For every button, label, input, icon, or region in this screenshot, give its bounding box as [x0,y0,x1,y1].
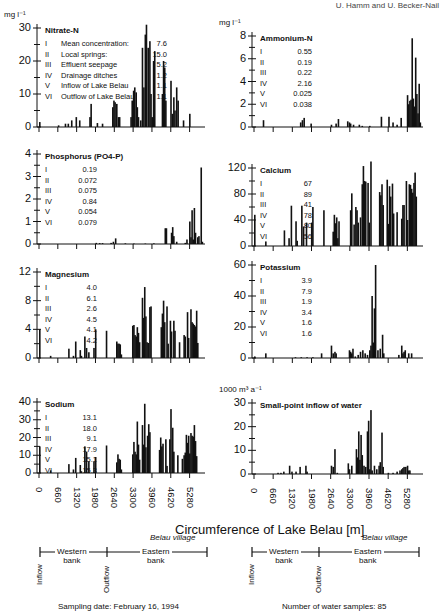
chart-legend: I0.55II0.19III0.22IV2.16V0.025VI0.038 [260,47,312,111]
legend-row: II0.072 [45,176,97,187]
bar [350,124,352,127]
bar [362,350,364,358]
bar [392,122,394,127]
legend-key: IV [260,308,276,319]
bar [119,117,121,127]
bar [125,243,127,244]
bar [137,422,139,473]
legend-key: V [260,318,276,329]
legend-key: III [260,68,276,79]
bar [182,459,184,473]
bar [369,126,371,127]
bar [172,114,174,127]
legend-value: 0.22 [276,68,312,79]
legend-key: VI [260,329,276,340]
bar [351,466,353,474]
bar [357,457,359,474]
legend-value: 0.038 [276,100,312,111]
bar [190,309,192,358]
legend-value: 4.1 [61,325,97,336]
bar [190,237,192,244]
bar [88,352,90,358]
legend-key: IV [260,211,276,222]
legend-key: I [45,165,61,176]
y-tick-label: 2 [222,97,246,109]
bar [132,326,134,358]
bar [58,125,60,127]
legend-row: IMean concentration:7.6 [45,39,167,50]
bar [184,453,186,473]
bar [191,322,193,358]
y-tick-label: 8 [7,294,31,306]
legend-value: 67 [276,179,312,190]
legend-key: I [45,413,61,424]
bar [295,357,297,358]
bar [188,436,190,473]
x-tick-label: 2640 [109,487,120,508]
bar [135,337,137,359]
legend-key: III [45,304,61,315]
legend-value: 0.84 [61,197,97,208]
chart-legend: I67II89III41IV78V80VI56 [260,179,312,243]
bar [368,223,370,246]
legend-row: IVDrainage ditches1.2 [45,71,167,82]
y-tick-label: 30 [222,396,246,408]
bar [113,101,115,127]
bar [118,117,120,127]
bar [39,122,41,127]
bar [102,243,104,244]
bar [337,238,339,246]
bar [383,353,385,358]
bar [170,81,172,127]
bar [189,453,191,473]
legend-row: I4.0 [45,283,97,294]
y-tick-label: 2 [7,192,31,204]
bar [338,221,340,246]
legend-value: 0.025 [276,89,312,100]
y-tick-label: 80 [222,187,246,199]
chart-title: Potassium [260,263,300,272]
bar [359,460,361,474]
bar [388,117,390,127]
legend-key: I [260,179,276,190]
bar [409,101,411,127]
bar [73,356,75,358]
shore-scheme-left: Belau village Westernbank Easternbank In… [35,533,235,603]
legend-value: 15.1 [61,455,97,466]
legend-row: I0.55 [260,47,312,58]
bar [299,467,301,474]
legend-key: IV [45,445,61,456]
bar [142,425,144,473]
bar [380,195,382,246]
bar [335,353,337,358]
bar [404,350,406,358]
x-tick-label: 1320 [72,487,83,508]
bar [140,120,142,127]
bar [93,348,95,358]
bar [89,117,91,127]
bar [382,467,384,474]
bar [197,343,199,358]
legend-key: III [45,434,61,445]
bar [200,168,202,245]
bar [119,460,121,473]
bar [393,214,395,247]
bar [146,342,148,358]
bar [291,472,293,474]
bar [187,443,189,473]
bar [407,466,409,474]
bar [171,233,173,244]
bar [176,87,178,127]
bar [410,100,412,127]
bar [370,410,372,474]
legend-value: 4.0 [61,283,97,294]
bar [375,265,377,358]
legend-value: 7.9 [276,287,312,298]
legend-key: V [45,207,61,218]
bar [169,439,171,473]
bar [138,333,140,358]
legend-value: 15.0 [147,50,167,61]
bar [186,240,188,245]
legend-label: Mean concentration: [61,39,147,50]
bar [364,181,366,246]
